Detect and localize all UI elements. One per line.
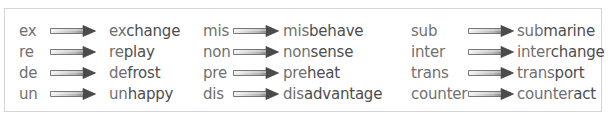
word-root: port xyxy=(555,64,585,82)
word-prefix: trans xyxy=(517,64,555,82)
word-root: heat xyxy=(307,64,340,82)
word-root: act xyxy=(573,85,596,103)
derived-word: replay xyxy=(109,42,155,62)
prefix-examples-panel: ex exchange re replay de defrost un unha… xyxy=(4,8,602,112)
derived-word: exchange xyxy=(109,21,180,41)
word-root: play xyxy=(124,43,155,61)
word-root: frost xyxy=(127,64,160,82)
derived-word: misbehave xyxy=(283,21,363,41)
word-root: advantage xyxy=(304,85,382,103)
derived-word: preheat xyxy=(283,63,340,83)
right-arrow-icon xyxy=(50,88,96,100)
word-root: change xyxy=(551,43,605,61)
word-root: behave xyxy=(309,22,363,40)
right-arrow-icon xyxy=(50,46,96,58)
word-prefix: sub xyxy=(517,22,543,40)
right-arrow-icon xyxy=(468,67,514,79)
prefix-label: trans xyxy=(411,63,449,83)
word-prefix: pre xyxy=(283,64,307,82)
word-prefix: mis xyxy=(283,22,309,40)
derived-word: disadvantage xyxy=(283,84,382,104)
right-arrow-icon xyxy=(468,88,514,100)
word-prefix: dis xyxy=(283,85,304,103)
derived-word: unhappy xyxy=(109,84,173,104)
prefix-label: mis xyxy=(203,21,229,41)
prefix-label: dis xyxy=(203,84,224,104)
word-prefix: inter xyxy=(517,43,551,61)
right-arrow-icon xyxy=(468,25,514,37)
word-root: change xyxy=(126,22,180,40)
prefix-label: pre xyxy=(203,63,227,83)
word-root: sense xyxy=(311,43,354,61)
derived-word: submarine xyxy=(517,21,595,41)
derived-word: nonsense xyxy=(283,42,353,62)
word-prefix: un xyxy=(109,85,128,103)
right-arrow-icon xyxy=(233,25,279,37)
right-arrow-icon xyxy=(50,67,96,79)
word-prefix: de xyxy=(109,64,127,82)
prefix-label: sub xyxy=(411,21,437,41)
right-arrow-icon xyxy=(50,25,96,37)
right-arrow-icon xyxy=(233,46,279,58)
word-root: happy xyxy=(128,85,174,103)
prefix-label: non xyxy=(203,42,231,62)
prefix-label: de xyxy=(19,63,37,83)
word-root: marine xyxy=(543,22,595,40)
word-prefix: counter xyxy=(517,85,573,103)
derived-word: defrost xyxy=(109,63,160,83)
prefix-label: counter xyxy=(411,84,467,104)
right-arrow-icon xyxy=(233,88,279,100)
derived-word: transport xyxy=(517,63,585,83)
word-prefix: ex xyxy=(109,22,126,40)
prefix-label: ex xyxy=(19,21,36,41)
prefix-label: inter xyxy=(411,42,445,62)
word-prefix: re xyxy=(109,43,124,61)
prefix-label: re xyxy=(19,42,34,62)
derived-word: interchange xyxy=(517,42,605,62)
prefix-label: un xyxy=(19,84,38,104)
word-prefix: non xyxy=(283,43,311,61)
right-arrow-icon xyxy=(468,46,514,58)
derived-word: counteract xyxy=(517,84,596,104)
right-arrow-icon xyxy=(233,67,279,79)
